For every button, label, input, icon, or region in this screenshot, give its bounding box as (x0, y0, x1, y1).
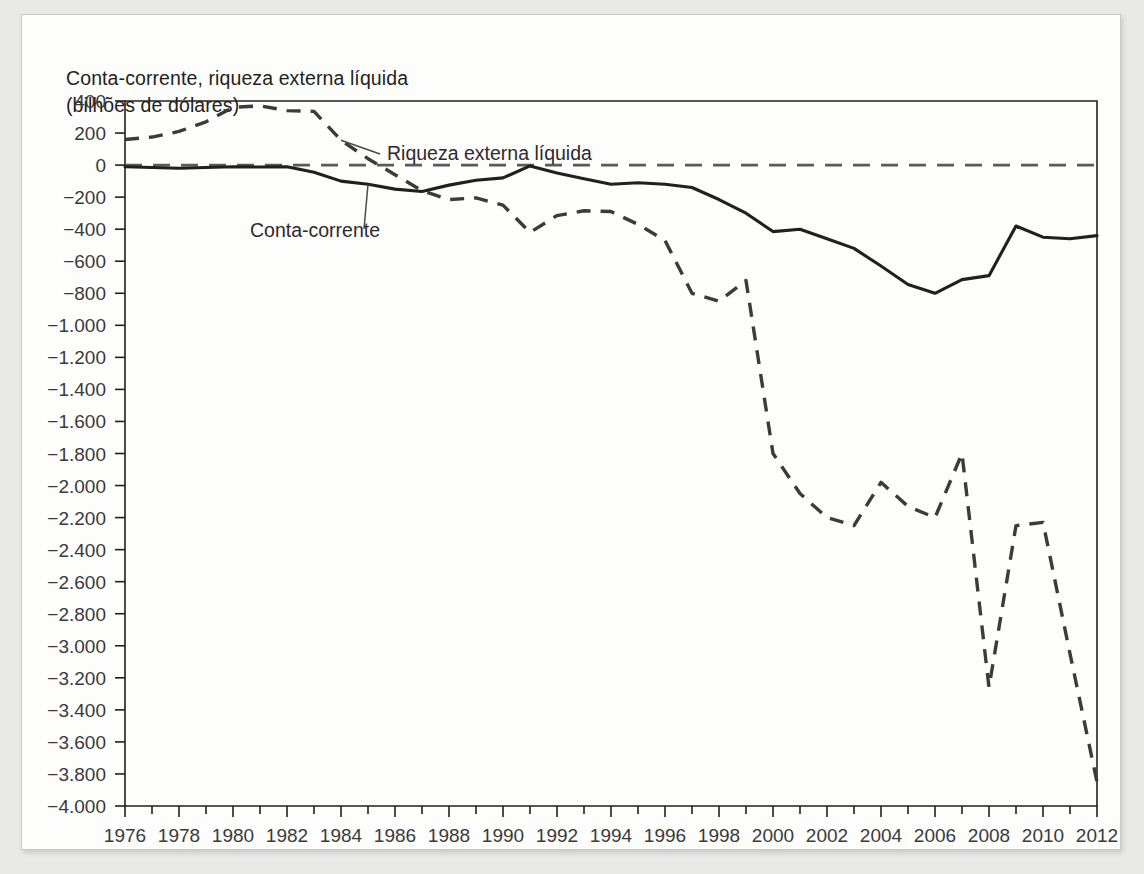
x-tick-label: 2012 (1076, 825, 1118, 846)
x-tick-label: 1984 (320, 825, 363, 846)
axis-frame (125, 101, 1097, 806)
x-tick-label: 1992 (536, 825, 578, 846)
y-axis-ticks (115, 101, 125, 806)
x-tick-label: 2000 (752, 825, 794, 846)
y-tick-label: −2.200 (47, 508, 106, 529)
y-tick-label: −3.200 (47, 668, 106, 689)
x-tick-label: 2008 (968, 825, 1010, 846)
y-tick-label: −1.200 (47, 347, 106, 368)
y-tick-label: −600 (63, 251, 106, 272)
x-axis-labels: 1976197819801982198419861988199019921994… (104, 825, 1118, 846)
y-tick-label: −2.400 (47, 540, 106, 561)
series-riqueza-externa-liquida (125, 106, 1097, 782)
x-tick-label: 1994 (590, 825, 633, 846)
y-tick-label: −400 (63, 219, 106, 240)
y-tick-label: −2.800 (47, 604, 106, 625)
x-tick-label: 1982 (266, 825, 308, 846)
y-tick-label: −2.600 (47, 572, 106, 593)
y-tick-label: −200 (63, 187, 106, 208)
x-tick-label: 1996 (644, 825, 686, 846)
y-tick-label: −3.800 (47, 764, 106, 785)
y-tick-label: −800 (63, 283, 106, 304)
x-tick-label: 2010 (1022, 825, 1064, 846)
plot-area: 4002000−200−400−600−800−1.000−1.200−1.40… (22, 15, 1122, 851)
y-tick-label: 400 (74, 91, 106, 112)
y-tick-label: −1.600 (47, 411, 106, 432)
x-tick-label: 1998 (698, 825, 740, 846)
y-tick-label: −1.800 (47, 444, 106, 465)
x-axis-ticks (125, 806, 1097, 817)
y-tick-label: −4.000 (47, 796, 106, 817)
leader-line-riqueza (341, 140, 380, 154)
x-tick-label: 2004 (860, 825, 903, 846)
x-tick-label: 1990 (482, 825, 524, 846)
y-tick-label: −3.600 (47, 732, 106, 753)
y-tick-label: −2.000 (47, 476, 106, 497)
annotation-conta-corrente: Conta-corrente (250, 219, 380, 241)
chart-page: Conta-corrente, riqueza externa líquida … (0, 0, 1144, 874)
x-tick-label: 1986 (374, 825, 416, 846)
y-tick-label: −3.000 (47, 636, 106, 657)
y-tick-label: −1.400 (47, 379, 106, 400)
annotation-riqueza-externa-liquida: Riqueza externa líquida (387, 142, 592, 164)
y-axis-labels: 4002000−200−400−600−800−1.000−1.200−1.40… (47, 91, 106, 817)
x-tick-label: 1978 (158, 825, 200, 846)
y-tick-label: 0 (95, 155, 106, 176)
x-tick-label: 1976 (104, 825, 146, 846)
line-chart-svg: 4002000−200−400−600−800−1.000−1.200−1.40… (22, 15, 1122, 851)
x-tick-label: 2006 (914, 825, 956, 846)
x-tick-label: 1980 (212, 825, 254, 846)
y-tick-label: −3.400 (47, 700, 106, 721)
x-tick-label: 2002 (806, 825, 848, 846)
y-tick-label: 200 (74, 123, 106, 144)
x-tick-label: 1988 (428, 825, 470, 846)
y-tick-label: −1.000 (47, 315, 106, 336)
chart-card: Conta-corrente, riqueza externa líquida … (21, 14, 1121, 850)
